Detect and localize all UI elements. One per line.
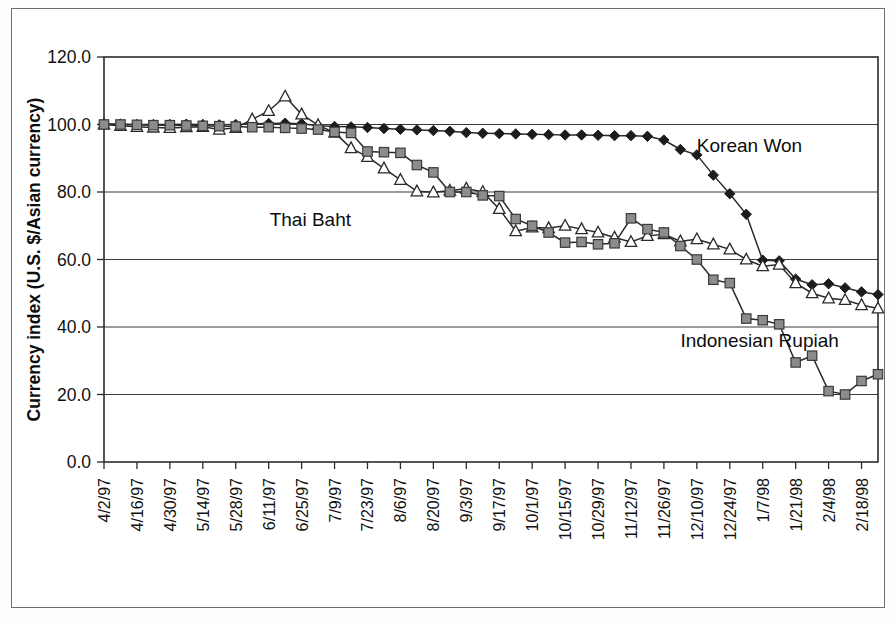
marker-square: [807, 351, 816, 360]
marker-diamond: [856, 287, 866, 297]
marker-diamond: [626, 130, 636, 140]
y-tick-label-60.0: 60.0: [57, 250, 91, 270]
marker-square: [165, 120, 174, 129]
currency-index-line-chart: 0.020.040.060.080.0100.0120.04/2/974/16/…: [0, 0, 896, 622]
marker-diamond: [659, 135, 669, 145]
marker-triangle: [395, 174, 406, 185]
x-tick-label-2/4/98: 2/4/98: [821, 478, 838, 523]
marker-diamond: [445, 126, 455, 136]
x-tick-label-1/7/98: 1/7/98: [755, 478, 772, 523]
marker-triangle: [279, 90, 290, 101]
marker-square: [379, 147, 388, 156]
series-label-indonesian-rupiah: Indonesian Rupiah: [680, 330, 838, 351]
x-tick-label-1/21/98: 1/21/98: [788, 478, 805, 531]
y-axis-title: Currency index (U.S. $/Asian currency): [24, 98, 44, 422]
marker-diamond: [593, 130, 603, 140]
marker-square: [840, 390, 849, 399]
marker-square: [313, 125, 322, 134]
marker-diamond: [395, 124, 405, 134]
marker-diamond: [642, 131, 652, 141]
marker-square: [758, 316, 767, 325]
x-tick-label-9/17/97: 9/17/97: [491, 478, 508, 531]
marker-square: [132, 120, 141, 129]
marker-square: [610, 239, 619, 248]
chart-figure: 0.020.040.060.080.0100.0120.04/2/974/16/…: [0, 0, 896, 622]
marker-square: [692, 255, 701, 264]
marker-diamond: [461, 127, 471, 137]
marker-square: [198, 121, 207, 130]
series-label-korean-won: Korean Won: [697, 135, 802, 156]
marker-square: [659, 228, 668, 237]
marker-square: [231, 122, 240, 131]
series-label-thai-baht: Thai Baht: [270, 209, 352, 230]
marker-triangle: [378, 162, 389, 173]
marker-square: [116, 120, 125, 129]
marker-square: [544, 228, 553, 237]
marker-square: [462, 187, 471, 196]
marker-triangle: [263, 105, 274, 116]
marker-square: [330, 127, 339, 136]
marker-diamond: [543, 129, 553, 139]
marker-square: [709, 275, 718, 284]
marker-diamond: [609, 130, 619, 140]
marker-square: [725, 278, 734, 287]
x-tick-label-8/20/97: 8/20/97: [425, 478, 442, 531]
x-tick-label-4/30/97: 4/30/97: [162, 478, 179, 531]
marker-square: [577, 237, 586, 246]
x-tick-label-11/12/97: 11/12/97: [623, 478, 640, 539]
marker-square: [182, 121, 191, 130]
marker-diamond: [840, 283, 850, 293]
marker-square: [857, 376, 866, 385]
marker-diamond: [428, 125, 438, 135]
y-tick-label-120.0: 120.0: [47, 47, 91, 67]
marker-triangle: [741, 253, 752, 264]
x-tick-label-10/29/97: 10/29/97: [590, 478, 607, 540]
x-tick-label-5/14/97: 5/14/97: [195, 478, 212, 531]
marker-square: [412, 160, 421, 169]
x-tick-label-12/24/97: 12/24/97: [722, 478, 739, 540]
marker-square: [560, 238, 569, 247]
marker-triangle: [411, 185, 422, 196]
marker-diamond: [675, 144, 685, 154]
marker-diamond: [412, 125, 422, 135]
y-tick-label-20.0: 20.0: [57, 385, 91, 405]
marker-square: [248, 123, 257, 132]
marker-square: [742, 314, 751, 323]
x-tick-label-10/1/97: 10/1/97: [524, 478, 541, 531]
marker-triangle: [691, 233, 702, 244]
x-tick-label-4/16/97: 4/16/97: [129, 478, 146, 531]
marker-diamond: [823, 279, 833, 289]
marker-diamond: [560, 130, 570, 140]
marker-diamond: [527, 129, 537, 139]
marker-square: [511, 214, 520, 223]
x-tick-label-11/26/97: 11/26/97: [656, 478, 673, 539]
marker-square: [149, 120, 158, 129]
marker-square: [593, 240, 602, 249]
x-tick-label-2/18/98: 2/18/98: [854, 478, 871, 531]
x-tick-label-4/2/97: 4/2/97: [96, 478, 113, 523]
marker-diamond: [362, 122, 372, 132]
marker-square: [774, 320, 783, 329]
marker-square: [99, 120, 108, 129]
marker-square: [396, 148, 405, 157]
marker-square: [676, 241, 685, 250]
x-tick-label-8/6/97: 8/6/97: [392, 478, 409, 523]
x-tick-label-6/11/97: 6/11/97: [261, 478, 278, 530]
marker-diamond: [511, 129, 521, 139]
marker-square: [495, 191, 504, 200]
x-tick-label-10/15/97: 10/15/97: [557, 478, 574, 540]
y-tick-label-0.0: 0.0: [67, 452, 92, 472]
marker-diamond: [494, 128, 504, 138]
marker-square: [264, 123, 273, 132]
marker-square: [445, 187, 454, 196]
marker-diamond: [873, 289, 883, 299]
marker-square: [297, 124, 306, 133]
x-tick-label-7/23/97: 7/23/97: [359, 478, 376, 531]
x-tick-label-7/9/97: 7/9/97: [327, 478, 344, 523]
marker-square: [873, 370, 882, 379]
marker-square: [478, 191, 487, 200]
x-tick-label-9/3/97: 9/3/97: [458, 478, 475, 523]
marker-square: [363, 147, 372, 156]
marker-square: [346, 128, 355, 137]
y-tick-label-40.0: 40.0: [57, 317, 91, 337]
